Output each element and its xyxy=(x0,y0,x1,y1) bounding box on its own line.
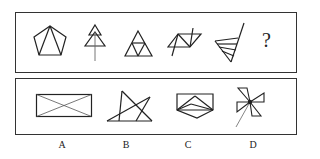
figure-subdivided-triangle xyxy=(124,30,154,58)
figure-tree xyxy=(84,24,108,64)
option-d-figure[interactable] xyxy=(234,87,266,129)
option-a-figure[interactable] xyxy=(36,94,92,118)
option-d-label[interactable]: D xyxy=(243,139,263,150)
figure-pentagon xyxy=(33,25,73,60)
unknown-marker: ? xyxy=(262,29,271,52)
option-b-label[interactable]: B xyxy=(116,139,136,150)
option-c-label[interactable]: C xyxy=(178,139,198,150)
option-b-figure[interactable] xyxy=(106,91,154,127)
figure-fan xyxy=(214,23,246,65)
option-a-label[interactable]: A xyxy=(52,139,72,150)
option-c-figure[interactable] xyxy=(176,93,214,121)
figure-parallelogram xyxy=(168,28,204,56)
